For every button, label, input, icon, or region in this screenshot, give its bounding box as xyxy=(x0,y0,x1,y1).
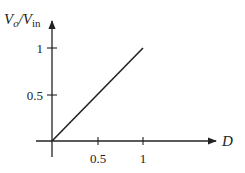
y-axis-label: Vo/Vin xyxy=(4,11,41,29)
x-tick-label-0-5: 0.5 xyxy=(90,151,106,166)
series-line-vo-vin xyxy=(52,48,143,141)
y-label-sub-in: in xyxy=(32,17,41,29)
chart-svg: 0.5 1 0.5 1 D Vo/Vin xyxy=(0,0,245,173)
y-tick-label-1: 1 xyxy=(37,41,44,56)
y-tick-label-0-5: 0.5 xyxy=(27,88,43,103)
x-tick-label-1: 1 xyxy=(140,151,147,166)
chart-container: 0.5 1 0.5 1 D Vo/Vin xyxy=(0,0,245,173)
x-axis-label: D xyxy=(221,133,233,149)
